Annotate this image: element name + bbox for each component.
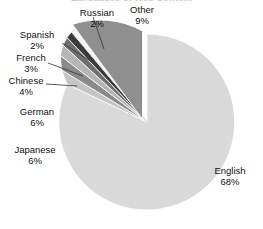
slice-label-japanese: Japanese 6%: [4, 145, 66, 166]
slice-label-japanese-pct: 6%: [4, 156, 66, 167]
slice-label-russian-name: Russian: [80, 7, 114, 18]
slice-label-chinese-name: Chinese: [9, 75, 44, 86]
slice-label-spanish-pct: 2%: [12, 41, 62, 52]
slice-label-spanish: Spanish 2%: [12, 30, 62, 51]
slice-label-french: French 3%: [7, 53, 55, 74]
slice-label-other-name: Other: [130, 4, 154, 15]
slice-label-french-name: French: [16, 52, 46, 63]
pie-chart: Languages of Web Content Russian 2% Othe…: [0, 0, 263, 229]
slice-label-english: English 68%: [206, 166, 254, 187]
slice-label-german: German 6%: [10, 107, 64, 128]
slice-label-chinese: Chinese 4%: [0, 76, 52, 97]
slice-label-chinese-pct: 4%: [0, 87, 52, 98]
slice-label-russian-pct: 2%: [74, 19, 120, 30]
slice-label-russian: Russian 2%: [74, 8, 120, 29]
slice-label-english-name: English: [214, 165, 245, 176]
slice-label-german-name: German: [20, 106, 54, 117]
slice-label-spanish-name: Spanish: [20, 29, 54, 40]
slice-label-french-pct: 3%: [7, 64, 55, 75]
slice-label-english-pct: 68%: [206, 177, 254, 188]
slice-label-other-pct: 9%: [122, 16, 162, 27]
slice-label-german-pct: 6%: [10, 118, 64, 129]
slice-label-other: Other 9%: [122, 5, 162, 26]
slice-label-japanese-name: Japanese: [14, 144, 55, 155]
